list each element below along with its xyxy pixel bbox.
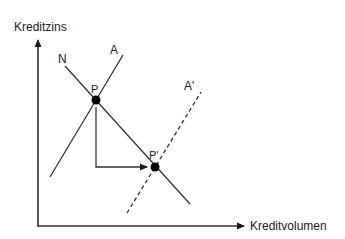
credit-market-diagram: Kreditzins Kreditvolumen N A A' P P'	[0, 0, 345, 239]
point-p-label: P	[91, 83, 98, 95]
shift-arrow	[96, 107, 147, 167]
equilibrium-point-p	[92, 96, 101, 105]
supply-curve-label: A	[110, 43, 118, 57]
point-p-prime-label: P'	[149, 149, 158, 161]
demand-curve-label: N	[58, 52, 67, 66]
equilibrium-point-p-prime	[151, 163, 160, 172]
supply-curve-a	[50, 55, 123, 177]
shifted-supply-curve-label: A'	[184, 79, 194, 93]
demand-curve-n	[65, 66, 190, 204]
x-axis-label: Kreditvolumen	[250, 219, 327, 233]
shifted-supply-curve-a-prime	[127, 92, 201, 213]
y-axis-label: Kreditzins	[14, 20, 67, 34]
